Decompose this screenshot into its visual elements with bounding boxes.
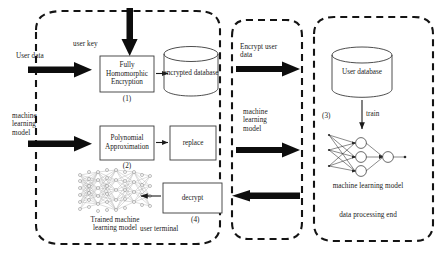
label-user-terminal: user terminal xyxy=(140,225,178,233)
network-trained-model xyxy=(79,169,152,213)
label-data-processing-end: data processing end xyxy=(325,211,411,219)
step-label-2: (2) xyxy=(100,162,154,170)
arrow-ml-model-channel xyxy=(236,143,300,158)
label-ml-model-channel: machine learning model xyxy=(243,108,268,133)
arrow-user-key xyxy=(122,8,138,56)
box-label-decrypt: decrypt xyxy=(163,183,222,213)
label-train: train xyxy=(366,110,379,118)
box-label-fhe: Fully Homomorphic Encryption xyxy=(100,56,154,92)
network-ml-model xyxy=(328,134,406,177)
arrow-result-return xyxy=(232,190,300,202)
step-label-1: (1) xyxy=(100,95,154,103)
arrow-encrypt-user-data xyxy=(236,62,300,77)
panel-data-processing-end-border xyxy=(314,17,433,241)
diagram-canvas: User data machine learning model user ke… xyxy=(0,0,446,263)
cylinder-label-user-database: User database xyxy=(332,61,392,83)
box-label-replace: replace xyxy=(170,126,216,160)
step-label-4: (4) xyxy=(191,216,200,224)
box-label-polynomial-approximation: Polynomial Approximation xyxy=(100,126,154,160)
arrow-ml-model-input xyxy=(28,136,92,152)
label-user-key: user key xyxy=(73,40,98,48)
network-label-ml-model: machine learning model xyxy=(322,182,414,190)
cylinder-label-encrypted-database: encrypted database xyxy=(160,62,222,84)
step-label-3: (3) xyxy=(322,112,331,120)
label-encrypt-user-data: Encrypt user data xyxy=(240,43,298,60)
label-ml-model-input: machine learning model xyxy=(12,112,37,137)
label-user-data: User data xyxy=(16,52,44,60)
arrow-user-data xyxy=(28,62,92,78)
